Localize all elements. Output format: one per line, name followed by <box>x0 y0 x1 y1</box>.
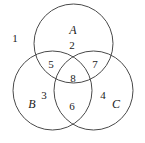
set-label-a: A <box>69 24 76 36</box>
region-label-8: 8 <box>70 73 76 84</box>
region-label-4: 4 <box>100 90 106 101</box>
set-label-c: C <box>112 98 120 110</box>
venn-diagram: A B C 1 2 3 4 5 6 7 8 <box>0 0 145 143</box>
region-label-3: 3 <box>41 90 47 101</box>
region-label-5: 5 <box>48 59 54 70</box>
region-label-2: 2 <box>69 40 75 51</box>
region-label-1: 1 <box>12 33 18 44</box>
set-label-b: B <box>28 98 35 110</box>
region-label-7: 7 <box>92 59 98 70</box>
region-label-6: 6 <box>69 101 75 112</box>
